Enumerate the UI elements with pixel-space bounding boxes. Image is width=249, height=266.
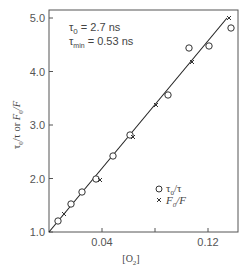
legend-circle-icon bbox=[156, 186, 162, 192]
data-point-circle bbox=[206, 43, 212, 49]
y-tick-label: 5.0 bbox=[30, 12, 45, 24]
x-tick-label: 0.12 bbox=[197, 236, 218, 248]
data-point-circle bbox=[110, 153, 116, 159]
annotation-tau0: τ0 = 2.7 ns bbox=[69, 21, 121, 36]
y-tick-label: 4.0 bbox=[30, 66, 45, 78]
data-point-cross bbox=[62, 212, 66, 216]
y-tick-label: 2.0 bbox=[30, 173, 45, 185]
data-point-circle bbox=[68, 201, 74, 207]
legend: τ0/τ F0/F bbox=[156, 182, 186, 209]
data-point-cross bbox=[227, 16, 231, 20]
series-tau-ratio bbox=[55, 25, 234, 224]
data-point-circle bbox=[186, 45, 192, 51]
data-point-circle bbox=[228, 25, 234, 31]
y-tick-label: 3.0 bbox=[30, 119, 45, 131]
y-axis bbox=[49, 18, 53, 232]
x-axis-label: [O2] bbox=[122, 253, 139, 266]
annotation-taumin: τmin = 0.53 ns bbox=[69, 35, 134, 49]
data-point-circle bbox=[55, 218, 61, 224]
stern-volmer-chart: 1.0 2.0 3.0 4.0 5.0 0.04 0.12 [O2] τ0/τ … bbox=[0, 0, 249, 266]
y-tick-label: 1.0 bbox=[30, 226, 45, 238]
legend-cross-icon bbox=[157, 198, 161, 202]
x-axis bbox=[102, 228, 208, 232]
data-point-circle bbox=[79, 189, 85, 195]
fit-line bbox=[49, 18, 227, 232]
legend-label-f: F0/F bbox=[165, 194, 186, 209]
x-tick-label: 0.04 bbox=[91, 236, 112, 248]
data-point-circle bbox=[165, 92, 171, 98]
y-axis-label: τ0/τ or F0/F bbox=[11, 100, 25, 149]
